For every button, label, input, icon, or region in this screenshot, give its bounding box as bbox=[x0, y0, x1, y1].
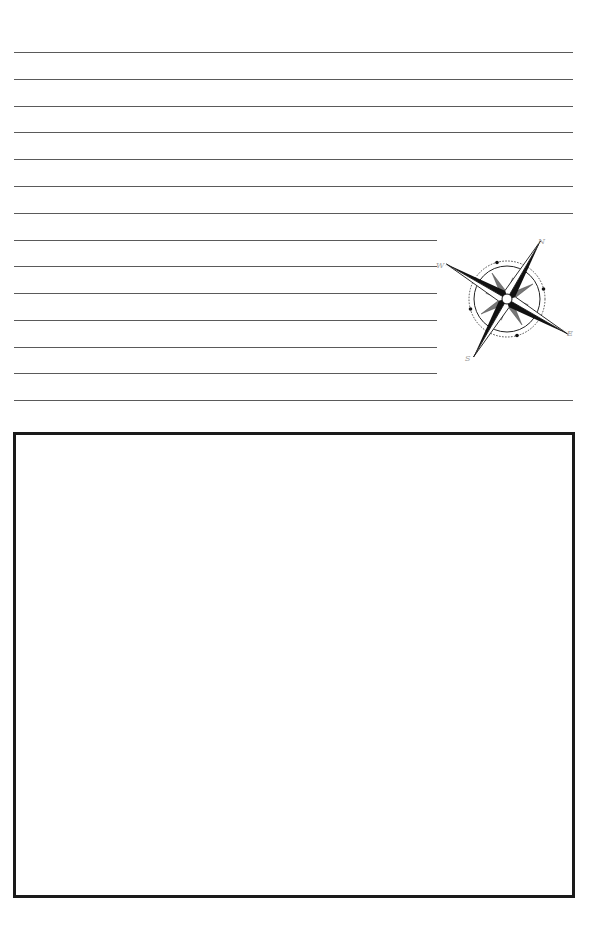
writing-line-short bbox=[14, 266, 437, 267]
compass-label-east: E bbox=[566, 329, 573, 338]
writing-line bbox=[14, 79, 573, 80]
writing-line bbox=[14, 52, 573, 53]
compass-label-north: N bbox=[537, 237, 546, 246]
writing-line bbox=[14, 159, 573, 160]
writing-line bbox=[14, 106, 573, 107]
drawing-box bbox=[13, 432, 575, 898]
compass-rose-icon: N E S W bbox=[432, 226, 587, 371]
writing-line-short bbox=[14, 240, 437, 241]
writing-line bbox=[14, 186, 573, 187]
writing-line bbox=[14, 213, 573, 214]
writing-line bbox=[14, 132, 573, 133]
writing-line-short bbox=[14, 293, 437, 294]
writing-line-short bbox=[14, 347, 437, 348]
compass-label-south: S bbox=[465, 354, 471, 363]
compass-label-west: W bbox=[436, 261, 445, 270]
journal-page: N E S W bbox=[0, 0, 607, 939]
writing-line-short bbox=[14, 320, 437, 321]
writing-line-short bbox=[14, 373, 437, 374]
writing-line bbox=[14, 400, 573, 401]
